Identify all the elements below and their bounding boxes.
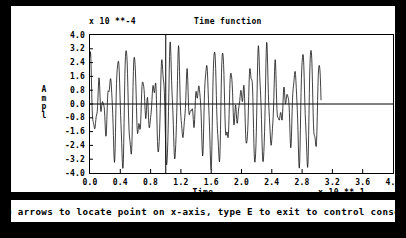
x-tick-label: 0.8: [143, 178, 158, 187]
y-tick-label: -1.6: [65, 127, 85, 136]
y-tick-label: 4.0: [70, 31, 85, 40]
x-tick-label: 0.4: [113, 178, 128, 187]
y-axis-tick-labels: 4.03.22.41.60.80.0-0.8-1.6-2.4-3.2-4.0: [49, 6, 85, 192]
y-tick-label: -2.4: [65, 141, 85, 150]
application-screen: x 10 **-4 Time function A m p l 4.03.22.…: [0, 0, 406, 238]
x-axis-exponent-label: x 10 **-1: [318, 188, 365, 197]
x-tick-label: 2.0: [234, 178, 249, 187]
x-tick-label: 2.8: [295, 178, 310, 187]
y-axis-title: A m p l: [39, 86, 49, 120]
plot-area[interactable]: [89, 34, 394, 174]
y-tick-label: -0.8: [65, 113, 85, 122]
y-tick-label: -4.0: [65, 169, 85, 178]
page-title: Time function: [194, 17, 262, 26]
signal-trace: [90, 42, 321, 170]
y-axis-title-char-3: l: [39, 112, 49, 121]
y-tick-label: -3.2: [65, 155, 85, 164]
y-tick-label: 0.8: [70, 86, 85, 95]
x-tick-label: 4.0: [385, 178, 400, 187]
x-tick-label: 1.6: [204, 178, 219, 187]
status-bar: Use arrows to locate point on x-axis, ty…: [11, 200, 395, 222]
status-bar-message: Use arrows to locate point on x-axis, ty…: [0, 206, 406, 217]
x-tick-label: 3.6: [355, 178, 370, 187]
y-tick-label: 1.6: [70, 72, 85, 81]
x-tick-label: 3.2: [325, 178, 340, 187]
y-tick-label: 0.0: [70, 100, 85, 109]
caption-artifact: [0, 228, 406, 238]
y-tick-label: 3.2: [70, 44, 85, 53]
x-tick-label: 0.0: [82, 178, 97, 187]
x-tick-label: 2.4: [264, 178, 279, 187]
y-tick-label: 2.4: [70, 58, 85, 67]
waveform-plot[interactable]: [90, 35, 393, 173]
x-tick-label: 1.2: [173, 178, 188, 187]
plot-panel: x 10 **-4 Time function A m p l 4.03.22.…: [11, 6, 395, 192]
y-axis-exponent-label: x 10 **-4: [89, 17, 136, 26]
